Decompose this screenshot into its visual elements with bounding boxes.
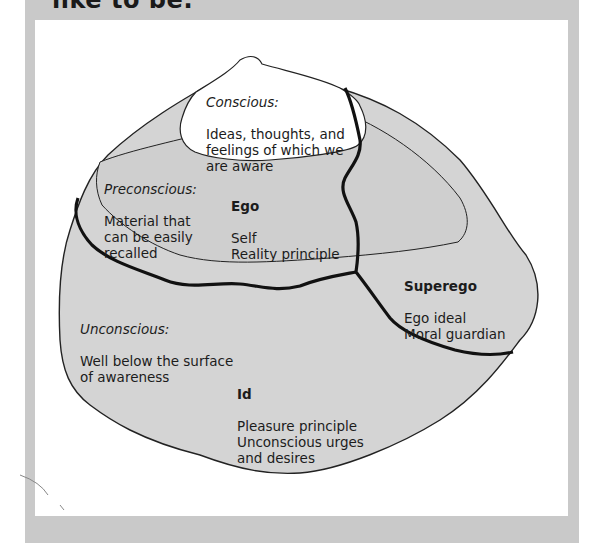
conscious-heading: Conscious: (206, 94, 345, 110)
unconscious-label: Unconscious: Well below the surface of a… (80, 305, 233, 385)
stray-line (20, 475, 64, 510)
conscious-text: Ideas, thoughts, and feelings of which w… (206, 126, 345, 174)
preconscious-label: Preconscious: Material that can be easil… (104, 165, 197, 261)
id-heading: Id (237, 386, 364, 402)
preconscious-text: Material that can be easily recalled (104, 213, 193, 261)
ego-heading: Ego (231, 198, 340, 214)
unconscious-text: Well below the surface of awareness (80, 353, 233, 385)
unconscious-heading: Unconscious: (80, 321, 233, 337)
superego-label: Superego Ego ideal Moral guardian (404, 262, 506, 342)
preconscious-heading: Preconscious: (104, 181, 197, 197)
id-label: Id Pleasure principle Unconscious urges … (237, 370, 364, 466)
superego-text: Ego ideal Moral guardian (404, 310, 506, 342)
superego-heading: Superego (404, 278, 506, 294)
ego-label: Ego Self Reality principle (231, 182, 340, 262)
ego-text: Self Reality principle (231, 230, 340, 262)
id-text: Pleasure principle Unconscious urges and… (237, 418, 364, 466)
conscious-label: Conscious: Ideas, thoughts, and feelings… (206, 78, 345, 174)
